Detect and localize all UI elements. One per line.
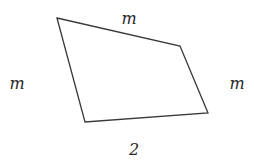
right-side-label: m <box>229 74 244 93</box>
quadrilateral-figure: m m m 2 <box>0 0 254 164</box>
top-side-label: m <box>121 9 136 28</box>
bottom-side-label: 2 <box>128 140 139 159</box>
left-side-label: m <box>9 74 24 93</box>
quadrilateral-shape <box>57 18 208 122</box>
